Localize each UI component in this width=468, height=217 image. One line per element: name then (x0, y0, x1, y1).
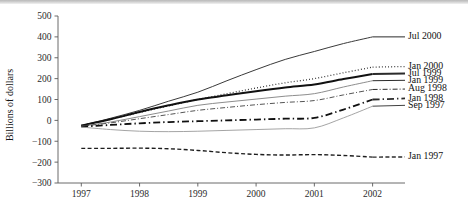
y-tick-label: 100 (37, 95, 52, 105)
x-tick-label: 2001 (305, 189, 324, 199)
series-leader-line (373, 67, 405, 68)
x-axis: 199719981999200020012002 (58, 183, 405, 199)
series-labels: Jul 2000Jan 2000Jul 1999Jan 1999Aug 1998… (408, 30, 447, 161)
x-tick-label: 1999 (188, 189, 207, 199)
series-label: Jan 1997 (408, 150, 443, 161)
y-tick-label: 500 (37, 11, 52, 21)
y-axis: 5004003002001000−100−200−300 (32, 11, 58, 188)
y-axis-title-group: Billions of dollars (4, 69, 15, 141)
y-tick-label: 400 (37, 32, 52, 42)
series-line (81, 74, 372, 126)
y-tick-label: −300 (32, 178, 52, 188)
y-tick-label: 200 (37, 74, 52, 84)
series-label: Jul 2000 (408, 30, 442, 41)
y-tick-label: 0 (47, 116, 52, 126)
series-line (81, 100, 372, 127)
x-tick-label: 2002 (363, 189, 382, 199)
series-lines (81, 37, 405, 157)
series-label: Sep 1997 (408, 99, 445, 110)
series-leader-line (373, 105, 405, 106)
x-tick-label: 2000 (247, 189, 266, 199)
series-line (81, 148, 372, 157)
y-tick-label: −200 (32, 158, 52, 168)
y-tick-label: 300 (37, 53, 52, 63)
x-tick-label: 1998 (130, 189, 149, 199)
x-tick-label: 1997 (72, 189, 91, 199)
chart-page: Billions of dollars 5004003002001000−100… (0, 0, 468, 217)
series-line (81, 81, 372, 127)
y-tick-label: −100 (32, 137, 52, 147)
y-axis-title: Billions of dollars (4, 69, 15, 141)
series-line (81, 67, 372, 125)
line-chart: Billions of dollars 5004003002001000−100… (0, 0, 468, 217)
series-leader-line (373, 98, 405, 99)
